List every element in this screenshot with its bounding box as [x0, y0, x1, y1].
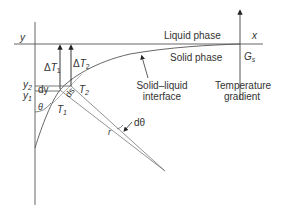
- y1-label: y1: [23, 90, 32, 104]
- t1-label: T1: [57, 104, 67, 118]
- dtheta-label: dθ: [134, 117, 145, 128]
- r-label: r: [108, 127, 111, 138]
- y-axis-label: y: [20, 32, 25, 43]
- theta-label: θ: [38, 102, 43, 113]
- solid-phase-label: Solid phase: [170, 52, 222, 63]
- dy-label: dy: [38, 84, 49, 95]
- delta-t2-label: ΔT2: [73, 58, 90, 72]
- interface-caption: Solid–liquid interface: [134, 80, 190, 102]
- liquid-phase-label: Liquid phase: [164, 30, 221, 41]
- dtheta-arc: [117, 125, 123, 129]
- x-axis-label: x: [252, 30, 257, 41]
- temperature-gradient-caption: Temperature gradient: [215, 80, 269, 102]
- diagram-canvas: [0, 0, 287, 210]
- radius-line-1: [60, 90, 165, 171]
- t2-label: T2: [79, 84, 89, 98]
- dtheta-pointer: [125, 122, 132, 130]
- delta-t1-label: ΔT1: [44, 62, 61, 76]
- gradient-symbol: Gs: [244, 51, 255, 65]
- interface-pointer: [142, 57, 148, 78]
